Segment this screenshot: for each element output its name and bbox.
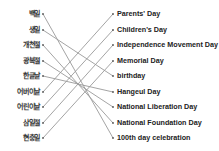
left-item-label: 광복절 [23, 57, 40, 65]
anchor-dot [112, 60, 114, 62]
right-item-label: Parents' Day [117, 10, 160, 18]
right-item-label: Independence Movement Day [117, 41, 218, 49]
left-item-label: 개천절 [23, 41, 40, 49]
connector-line [43, 14, 113, 138]
anchor-dot [42, 106, 44, 108]
left-item-label: 생일 [29, 26, 40, 34]
matching-exercise: 백일 생일 개천절 광복절 한글날 어버이날 어린이날 삼일절 현충일 Pare… [0, 0, 219, 151]
left-item-label: 현충일 [23, 134, 40, 142]
left-item-label: 삼일절 [23, 119, 40, 127]
left-item-label: 어린이날 [17, 103, 40, 111]
anchor-dot [112, 106, 114, 108]
connector-line [43, 14, 113, 92]
right-item-label: Memorial Day [117, 57, 164, 65]
anchor-dot [42, 137, 44, 139]
anchor-dot [112, 122, 114, 124]
right-item-label: Hangeul Day [117, 88, 161, 96]
anchor-dot [112, 91, 114, 93]
anchor-dot [112, 75, 114, 77]
left-item-label: 한글날 [23, 72, 40, 80]
connector-line [43, 61, 113, 138]
right-item-label: 100th day celebration [117, 134, 191, 142]
anchor-dot [112, 44, 114, 46]
connector-line [43, 30, 113, 107]
anchor-dot [42, 13, 44, 15]
anchor-dot [112, 29, 114, 31]
anchor-dot [42, 122, 44, 124]
anchor-dot [42, 29, 44, 31]
anchor-dot [112, 13, 114, 15]
left-item-label: 백일 [29, 10, 40, 18]
anchor-dot [42, 75, 44, 77]
left-item-label: 어버이날 [17, 88, 40, 96]
anchor-dot [42, 91, 44, 93]
anchor-dot [42, 60, 44, 62]
right-item-label: National Foundation Day [117, 119, 202, 127]
anchor-dot [42, 44, 44, 46]
right-item-label: National Liberation Day [117, 103, 197, 111]
anchor-dot [112, 137, 114, 139]
right-item-label: Children's Day [117, 26, 167, 34]
right-item-label: birthday [117, 72, 145, 80]
